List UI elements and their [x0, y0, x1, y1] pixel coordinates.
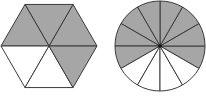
circle-figure: [115, 1, 205, 91]
hexagon-figure: [1, 4, 97, 87]
center-dot: [158, 44, 162, 48]
fraction-diagram: [0, 0, 206, 102]
